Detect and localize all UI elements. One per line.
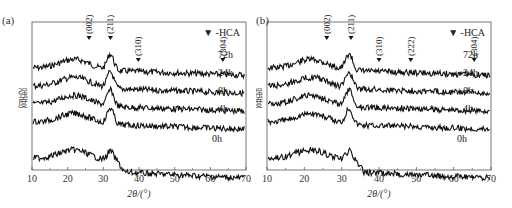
legend-hca: ▼ -HCA — [448, 27, 486, 38]
panel-label: (b) — [256, 14, 269, 27]
series-label: 4h — [218, 103, 228, 114]
peak-marker-icon — [136, 58, 141, 62]
x-tick-label: 30 — [337, 173, 347, 184]
series-label: 24h — [463, 67, 478, 78]
peak-marker-icon — [324, 36, 329, 40]
peak-label: (304) — [469, 37, 479, 57]
series-label: 8h — [463, 85, 473, 96]
x-tick-label: 70 — [486, 173, 496, 184]
x-tick-label: 10 — [262, 173, 272, 184]
xrd-chart-b: (b)102030405060702θ/(°)强度▼ -HCA72h24h8h4… — [256, 0, 512, 208]
peak-marker-icon — [377, 58, 382, 62]
y-axis-label: 强度 — [17, 88, 28, 109]
panel-a: (a)102030405060702θ/(°)强度▼ -HCA72h24h8h4… — [0, 0, 256, 208]
panel-label: (a) — [2, 14, 15, 27]
series-72h — [268, 53, 490, 77]
x-tick-label: 10 — [27, 173, 37, 184]
series-label: 8h — [218, 85, 228, 96]
peak-label: (222) — [406, 37, 416, 57]
series-label: 0h — [457, 133, 467, 144]
peak-marker-icon — [108, 36, 113, 40]
peak-label: (211) — [105, 15, 115, 34]
xrd-chart-a: (a)102030405060702θ/(°)强度▼ -HCA72h24h8h4… — [0, 0, 256, 208]
legend-hca: ▼ -HCA — [203, 27, 241, 38]
series-8h — [268, 88, 490, 113]
peak-label: (002) — [322, 15, 332, 35]
x-tick-label: 30 — [98, 173, 108, 184]
series-label: 0h — [212, 133, 222, 144]
series-label: 4h — [463, 103, 473, 114]
peak-marker-icon — [472, 58, 477, 62]
peak-marker-icon — [87, 36, 92, 40]
peak-label: (211) — [346, 15, 356, 34]
series-label: 24h — [218, 67, 233, 78]
x-axis-label: 2θ/(°) — [367, 188, 391, 200]
peak-marker-icon — [220, 58, 225, 62]
x-tick-label: 20 — [299, 173, 309, 184]
series-4h — [268, 108, 490, 131]
x-tick-label: 20 — [63, 173, 73, 184]
peak-label: (304) — [218, 37, 228, 57]
panel-b: (b)102030405060702θ/(°)强度▼ -HCA72h24h8h4… — [256, 0, 512, 208]
x-axis-label: 2θ/(°) — [127, 188, 151, 200]
peak-label: (002) — [84, 15, 94, 35]
x-tick-label: 70 — [241, 173, 251, 184]
peak-marker-icon — [349, 36, 354, 40]
peak-label: (310) — [374, 37, 384, 57]
y-axis-label: 强度 — [256, 88, 263, 109]
peak-label: (310) — [133, 37, 143, 57]
peak-marker-icon — [408, 58, 413, 62]
series-72h — [33, 54, 244, 78]
